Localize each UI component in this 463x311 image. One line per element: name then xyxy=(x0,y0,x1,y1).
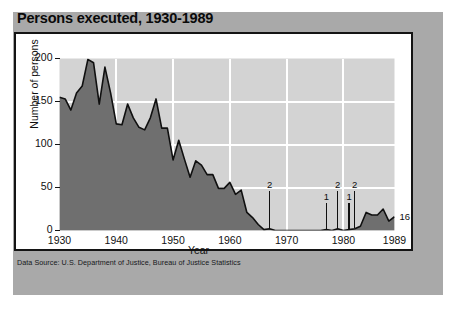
y-tick-label: 200 xyxy=(0,51,53,63)
x-axis-label-text: Year xyxy=(188,244,209,256)
y-tick-label: 150 xyxy=(0,94,53,106)
y-axis-label: Number of persons xyxy=(28,24,40,144)
chart-figure: Persons executed, 1930-1989 050100150200… xyxy=(0,0,463,311)
chart-title: Persons executed, 1930-1989 xyxy=(17,10,213,26)
y-tick-label: 100 xyxy=(0,137,53,149)
annotation-label: 1 xyxy=(314,191,338,202)
annotation-label: 2 xyxy=(258,179,282,190)
annotation-label: 16 xyxy=(400,211,424,222)
y-tick-label: 50 xyxy=(0,180,53,192)
data-source-note: Data Source: U.S. Department of Justice,… xyxy=(17,258,241,267)
annotation-label: 2 xyxy=(343,179,367,190)
x-axis-label: Year xyxy=(0,244,463,256)
annotation-label: 1 xyxy=(337,191,361,202)
plot-panel xyxy=(14,32,413,251)
